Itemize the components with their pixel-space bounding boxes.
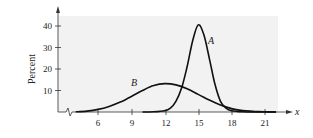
x-tick-label: 15 — [195, 118, 205, 128]
chart: 10 20 30 40 Percent x 6 9 12 15 18 21 A … — [0, 0, 313, 138]
y-tick-label: 40 — [43, 21, 53, 31]
x-axis-arrow-icon — [286, 110, 293, 114]
y-tick-label: 30 — [43, 43, 53, 53]
x-tick-label: 18 — [228, 118, 238, 128]
x-tick-label: 9 — [130, 118, 135, 128]
x-tick-label: 12 — [162, 118, 171, 128]
curve-a-label: A — [207, 35, 215, 46]
x-axis-title: x — [294, 106, 300, 117]
x-tick-label: 6 — [96, 118, 101, 128]
plot-area — [58, 16, 278, 112]
y-axis-arrow-icon — [56, 6, 60, 13]
y-axis-title: Percent — [26, 54, 37, 84]
x-tick-label: 21 — [261, 118, 270, 128]
y-tick-label: 10 — [43, 86, 53, 96]
curve-b-label: B — [131, 77, 137, 88]
y-tick-label: 20 — [43, 64, 53, 74]
